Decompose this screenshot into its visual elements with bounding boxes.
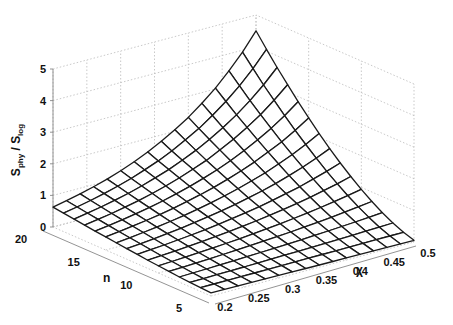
z-tick-label: 0 (40, 221, 46, 233)
x-axis-label: χ (356, 263, 363, 277)
z-label-sub1: phy (16, 153, 25, 168)
z-tick-label: 3 (40, 126, 46, 138)
grid-line (53, 15, 256, 69)
z-axis-label-text: Sphy / Slog (9, 124, 25, 176)
surface-mesh (53, 31, 414, 293)
y-tick-label: 15 (68, 256, 80, 268)
z-label-s2: / S (9, 136, 23, 154)
x-tick-label: 0.2 (217, 301, 232, 313)
z-tick-label: 1 (40, 189, 46, 201)
x-tick-label: 0.3 (285, 283, 300, 295)
z-label-s1: S (9, 168, 23, 176)
x-tick-label: 0.35 (316, 274, 337, 286)
x-tick-label: 0.5 (420, 247, 435, 259)
z-tick-label: 2 (40, 158, 46, 170)
y-axis-label: n (103, 271, 110, 285)
z-tick-label: 4 (40, 95, 47, 107)
x-tick-label: 0.45 (383, 256, 404, 268)
y-tick-label: 10 (120, 279, 132, 291)
z-axis-label: Sphy / Slog (9, 124, 25, 176)
surface-plot: 01234551015200.20.250.30.350.40.450.5 χ … (0, 0, 453, 325)
y-tick-label: 20 (15, 233, 27, 245)
y-tick-label: 5 (176, 302, 182, 314)
x-tick-label: 0.25 (248, 292, 269, 304)
z-tick-label: 5 (40, 63, 46, 75)
z-label-sub2: log (16, 124, 25, 136)
